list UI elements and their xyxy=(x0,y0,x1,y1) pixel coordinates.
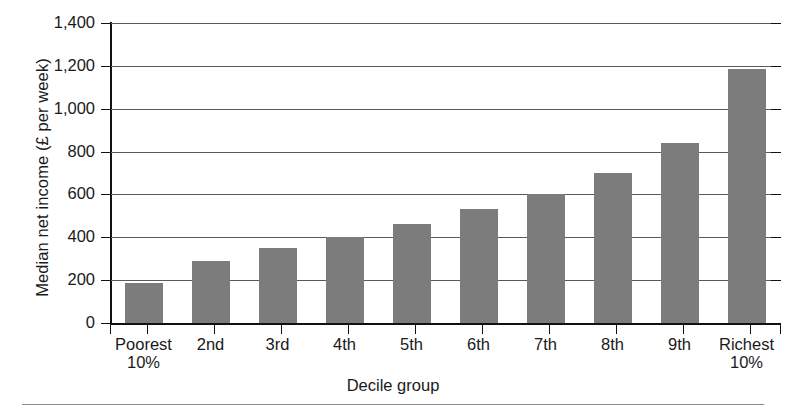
x-tick-mark xyxy=(683,325,684,334)
gridline xyxy=(110,23,780,24)
bar xyxy=(326,237,364,323)
y-tick-mark xyxy=(101,323,111,324)
x-tick-mark xyxy=(616,325,617,334)
y-tick-mark-right xyxy=(771,280,781,281)
bar xyxy=(393,224,431,323)
y-tick-mark-right xyxy=(771,152,781,153)
bar xyxy=(460,209,498,323)
y-tick-label: 600 xyxy=(15,185,95,202)
y-tick-mark xyxy=(101,237,111,238)
y-tick-label: 200 xyxy=(15,271,95,288)
x-axis-line xyxy=(110,323,781,325)
x-tick-label-line1: 4th xyxy=(333,335,356,353)
x-tick-label-line2: 10% xyxy=(702,354,786,372)
x-tick-label-line1: 9th xyxy=(668,335,691,353)
y-tick-label: 800 xyxy=(15,143,95,160)
bar xyxy=(259,248,297,323)
y-tick-label: 1,000 xyxy=(15,100,95,117)
x-tick-mark xyxy=(214,325,215,334)
page-rule xyxy=(22,404,764,405)
y-tick-mark-right xyxy=(771,109,781,110)
x-tick-mark-origin xyxy=(110,325,111,334)
x-tick-mark xyxy=(281,325,282,334)
gridline xyxy=(110,109,780,110)
bar xyxy=(661,143,699,323)
x-tick-label: Richest10% xyxy=(702,336,786,372)
x-tick-label-line1: 5th xyxy=(400,335,423,353)
x-tick-label-line1: 6th xyxy=(467,335,490,353)
y-tick-mark xyxy=(101,66,111,67)
bar xyxy=(125,283,163,323)
x-tick-label-line1: 7th xyxy=(534,335,557,353)
gridline xyxy=(110,66,780,67)
bar xyxy=(192,261,230,323)
bar xyxy=(728,69,766,323)
y-tick-mark-right xyxy=(771,23,781,24)
y-tick-mark xyxy=(101,109,111,110)
y-tick-label: 1,200 xyxy=(15,57,95,74)
y-tick-label: 400 xyxy=(15,228,95,245)
x-tick-label-line1: Poorest xyxy=(115,335,172,353)
x-tick-label-line1: 3rd xyxy=(266,335,290,353)
x-tick-mark xyxy=(549,325,550,334)
y-tick-mark xyxy=(101,194,111,195)
y-tick-label: 0 xyxy=(15,314,95,331)
x-tick-label-line2: 10% xyxy=(99,354,189,372)
x-tick-label-line1: Richest xyxy=(719,335,774,353)
y-tick-mark-right xyxy=(771,66,781,67)
x-tick-mark xyxy=(147,325,148,334)
y-tick-mark xyxy=(101,152,111,153)
y-tick-mark xyxy=(101,280,111,281)
bar xyxy=(527,194,565,323)
x-tick-mark xyxy=(750,325,751,334)
bar xyxy=(594,173,632,323)
chart-figure: Median net income (£ per week) 020040060… xyxy=(0,0,786,416)
x-tick-mark xyxy=(348,325,349,334)
x-tick-mark xyxy=(482,325,483,334)
x-tick-mark-end xyxy=(780,325,781,334)
x-tick-label-line1: 2nd xyxy=(197,335,225,353)
y-tick-mark-right xyxy=(771,194,781,195)
x-axis-title: Decile group xyxy=(0,376,786,395)
y-tick-mark xyxy=(101,23,111,24)
y-tick-label: 1,400 xyxy=(15,14,95,31)
x-tick-mark xyxy=(415,325,416,334)
y-tick-mark-right xyxy=(771,237,781,238)
x-tick-label-line1: 8th xyxy=(601,335,624,353)
